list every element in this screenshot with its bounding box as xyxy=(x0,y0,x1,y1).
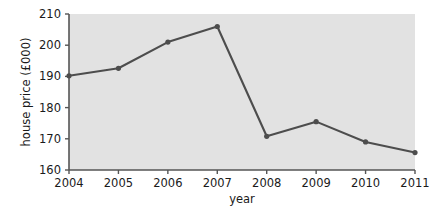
y-axis-title: house price (£000) xyxy=(19,38,33,147)
x-tick-label: 2005 xyxy=(104,176,133,190)
x-tick-label: 2007 xyxy=(203,176,232,190)
data-point xyxy=(412,150,417,155)
x-tick-label: 2010 xyxy=(351,176,380,190)
y-tick-label: 210 xyxy=(39,7,61,21)
data-point xyxy=(66,73,71,78)
y-tick-label: 170 xyxy=(39,132,61,146)
data-point xyxy=(314,119,319,124)
x-tick-label: 2009 xyxy=(302,176,331,190)
x-axis-title: year xyxy=(229,192,255,206)
data-point xyxy=(215,24,220,29)
y-tick-label: 200 xyxy=(39,38,61,52)
x-tick-label: 2006 xyxy=(153,176,182,190)
x-tick-label: 2011 xyxy=(400,176,429,190)
y-tick-label: 180 xyxy=(39,101,61,115)
data-point xyxy=(165,39,170,44)
chart-canvas: 160170180190200210 200420052006200720082… xyxy=(0,0,438,218)
x-tick-label: 2004 xyxy=(54,176,83,190)
y-tick-label: 190 xyxy=(39,69,61,83)
y-tick-label: 160 xyxy=(39,163,61,177)
data-point xyxy=(116,66,121,71)
line-chart: 160170180190200210 200420052006200720082… xyxy=(0,0,438,218)
plot-area-background xyxy=(69,14,415,170)
data-point xyxy=(264,134,269,139)
x-tick-label: 2008 xyxy=(252,176,281,190)
data-point xyxy=(363,139,368,144)
